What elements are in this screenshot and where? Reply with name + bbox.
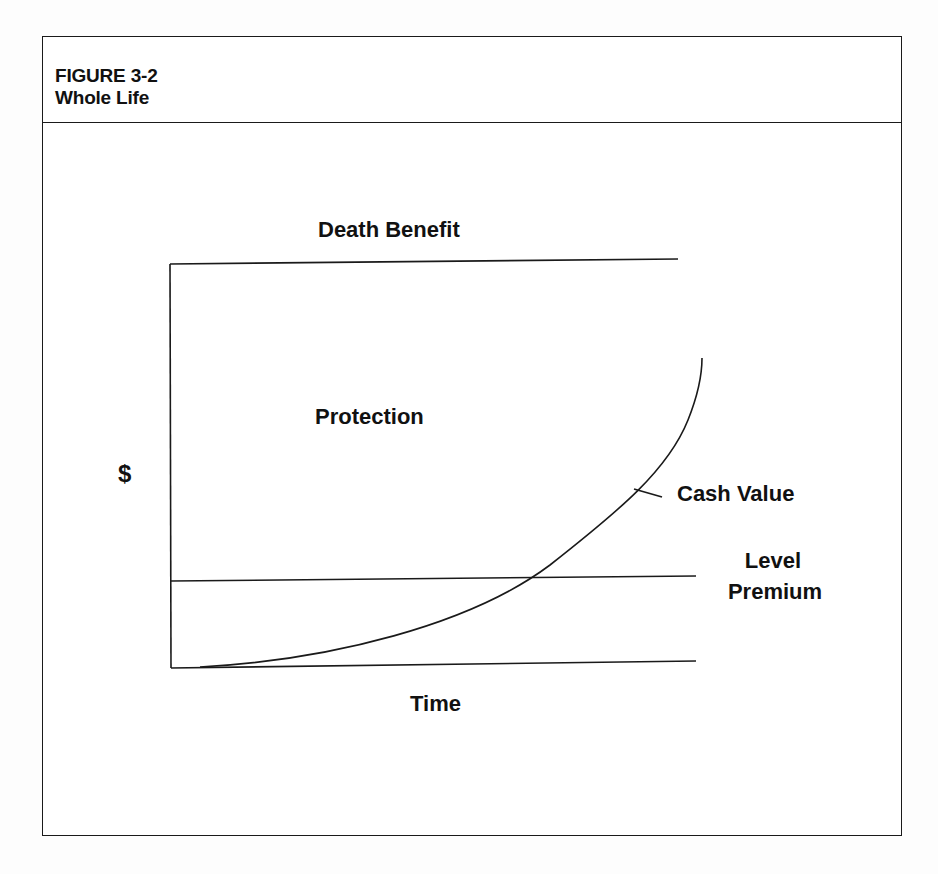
whole-life-diagram [0, 0, 938, 874]
level-premium-line [171, 576, 696, 581]
level-premium-label-line2: Premium [725, 580, 825, 604]
cash-value-leader-line [634, 489, 662, 497]
death-benefit-label: Death Benefit [318, 218, 460, 242]
cash-value-curve [200, 358, 702, 667]
x-axis-line [171, 661, 696, 668]
protection-label: Protection [315, 405, 424, 429]
cash-value-label: Cash Value [677, 482, 794, 506]
y-axis-line [170, 264, 171, 668]
x-axis-label: Time [410, 692, 461, 716]
death-benefit-line [170, 259, 678, 264]
y-axis-label: $ [118, 462, 131, 486]
level-premium-label-line1: Level [738, 549, 808, 573]
